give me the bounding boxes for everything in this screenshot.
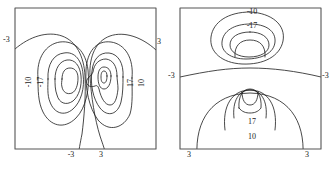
left-contour-panel: -3 3 -10 -17 17 10 -3 3 — [0, 0, 168, 169]
contour-pos3 — [90, 34, 156, 156]
left-label-pos3-edge: 3 — [157, 38, 161, 46]
right-label-pos3-bottom-right: 3 — [305, 151, 309, 159]
left-label-pos17: 17 — [127, 79, 135, 87]
contour-inner-left-1 — [55, 60, 81, 104]
right-contour-panel: -10 -17 -3 -3 17 10 3 3 — [168, 0, 336, 169]
right-label-pos17: 17 — [248, 118, 256, 126]
left-label-neg17: -17 — [37, 77, 45, 88]
left-label-neg3-bottom: -3 — [68, 151, 75, 159]
left-contour-lines — [15, 34, 156, 156]
right-label-pos10: 10 — [248, 133, 256, 141]
right-label-neg10: -10 — [247, 8, 258, 16]
left-label-pos10: 10 — [138, 79, 146, 87]
contour-figure: -3 3 -10 -17 17 10 -3 3 — [0, 0, 336, 169]
contour-core-right — [101, 71, 107, 83]
contour-inner-upper-1 — [230, 32, 269, 57]
contour-neg3-span — [180, 68, 321, 77]
right-label-neg17: -17 — [247, 22, 258, 30]
left-label-pos3-bottom: 3 — [99, 151, 103, 159]
contour-neg10-upper — [211, 12, 284, 64]
contour-neg17-left — [48, 53, 84, 113]
contour-inner-upper-crescent — [235, 40, 265, 57]
left-label-neg10: -10 — [25, 77, 33, 88]
right-label-neg3-right: -3 — [322, 72, 329, 80]
contour-inner-lower-crescent — [242, 92, 258, 105]
contour-inner-right-2 — [98, 67, 111, 89]
contour-neg3 — [15, 34, 85, 156]
left-label-neg3-edge: -3 — [3, 36, 10, 44]
contour-inner-left-2 — [62, 68, 78, 94]
right-label-pos3-bottom-left: 3 — [187, 151, 191, 159]
right-label-neg3-left: -3 — [168, 72, 175, 80]
